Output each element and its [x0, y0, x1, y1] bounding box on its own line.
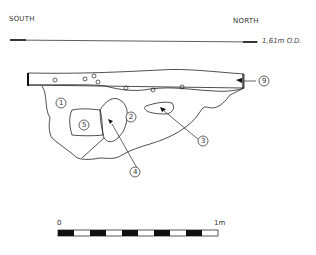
- scale-bar: [0, 0, 316, 255]
